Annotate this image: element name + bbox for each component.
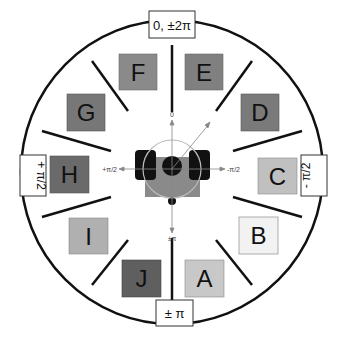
- svg-text:+ π/2: + π/2: [34, 161, 48, 190]
- target-G: G: [67, 94, 105, 131]
- svg-text:E: E: [196, 59, 212, 86]
- svg-text:±π: ±π: [168, 235, 177, 242]
- angle-label-left: + π/2: [20, 155, 48, 196]
- target-F: F: [119, 54, 157, 90]
- svg-text:- π/2: - π/2: [299, 162, 313, 188]
- arena-diagram: F E G D H C I B J A 0, ±2π ± π: [0, 0, 347, 343]
- svg-text:G: G: [77, 99, 96, 126]
- svg-text:+π/2: +π/2: [102, 166, 117, 173]
- target-E: E: [185, 54, 223, 90]
- svg-text:I: I: [85, 223, 92, 250]
- robot-left-wheel: [135, 150, 156, 180]
- svg-text:D: D: [251, 99, 268, 126]
- angle-label-bottom: ± π: [156, 300, 193, 326]
- target-H: H: [50, 156, 89, 193]
- svg-text:0, ±2π: 0, ±2π: [153, 18, 191, 33]
- svg-text:0: 0: [170, 111, 174, 118]
- robot-right-wheel: [189, 150, 210, 180]
- target-B: B: [239, 217, 278, 254]
- svg-text:A: A: [196, 265, 212, 292]
- target-J: J: [122, 260, 161, 297]
- angle-label-top: 0, ±2π: [149, 11, 195, 38]
- svg-text:H: H: [61, 161, 78, 188]
- angle-label-right: - π/2: [299, 155, 327, 196]
- target-C: C: [258, 158, 297, 194]
- svg-text:± π: ± π: [165, 306, 185, 321]
- robot: [135, 140, 210, 205]
- svg-text:B: B: [250, 222, 266, 249]
- target-A: A: [185, 260, 224, 297]
- svg-text:J: J: [136, 265, 148, 292]
- target-I: I: [69, 218, 108, 254]
- target-D: D: [241, 94, 279, 131]
- svg-text:F: F: [131, 59, 146, 86]
- svg-text:C: C: [269, 163, 286, 190]
- svg-text:-π/2: -π/2: [227, 166, 240, 173]
